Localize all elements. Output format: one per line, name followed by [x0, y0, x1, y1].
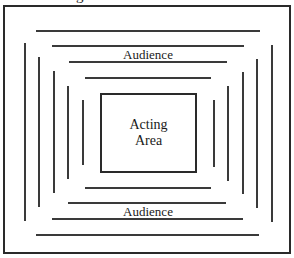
- acting-area-label-line1: Acting: [129, 117, 167, 133]
- acting-area-box: Acting Area: [100, 93, 197, 173]
- acting-area-label-line2: Area: [135, 133, 162, 149]
- seat-row-right-2: [256, 59, 258, 208]
- seat-row-left-5: [82, 100, 84, 165]
- seat-row-left-4: [67, 86, 69, 179]
- seat-row-left-3: [53, 71, 55, 193]
- seat-row-left-2: [38, 57, 40, 207]
- caption-fragment: g: [76, 0, 84, 3]
- seat-row-right-4: [227, 86, 229, 181]
- cropped-caption: g: [0, 0, 294, 4]
- seat-row-right-3: [242, 72, 244, 194]
- seat-row-top-1: [36, 30, 260, 32]
- seat-row-bottom-4: [36, 234, 259, 236]
- seat-row-bottom-1: [85, 187, 211, 189]
- seat-row-right-1: [271, 45, 273, 222]
- seat-row-right-5: [213, 100, 215, 167]
- audience-label-bottom: Audience: [88, 205, 208, 219]
- seat-row-top-4: [85, 77, 211, 79]
- seat-row-left-1: [24, 43, 26, 221]
- audience-label-top: Audience: [88, 48, 208, 62]
